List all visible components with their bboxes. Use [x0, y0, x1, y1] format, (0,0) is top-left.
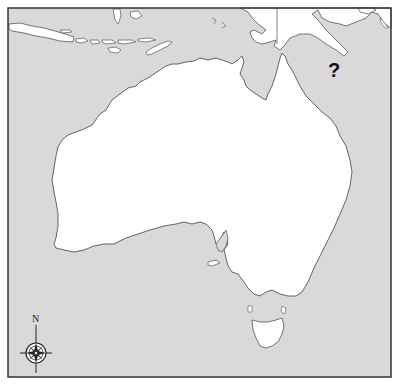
map-frame	[0, 0, 397, 386]
compass-north-label: N	[32, 314, 39, 324]
unknown-location-marker: ?	[328, 60, 340, 80]
